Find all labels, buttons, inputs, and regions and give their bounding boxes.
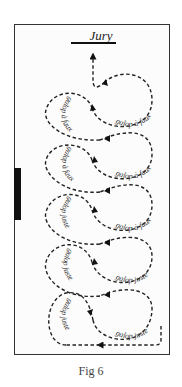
loop-label-right-1: galop à faux <box>114 111 153 128</box>
loop-label-right-4: galop juste <box>114 270 150 285</box>
loop-label-right-2: galop à faux <box>114 163 153 180</box>
figure-caption: Fig 6 <box>0 364 182 379</box>
loop-label-left-2: galop à faux <box>60 145 76 183</box>
loop-label-left-5: galop juste <box>59 297 74 332</box>
loop-label-left-1: galop à faux <box>60 95 76 134</box>
loop-label-left-4: galop juste <box>61 247 75 282</box>
dashed-path <box>45 56 161 345</box>
loop-label-left-3: galop juste <box>59 195 74 230</box>
riding-path-diagram: Jury gal <box>0 0 182 387</box>
direction-arrows <box>87 79 110 316</box>
jury-label: Jury <box>89 28 112 43</box>
loop-label-right-3: galop à faux <box>114 215 153 232</box>
loop-label-right-5: galop juste <box>114 326 150 341</box>
